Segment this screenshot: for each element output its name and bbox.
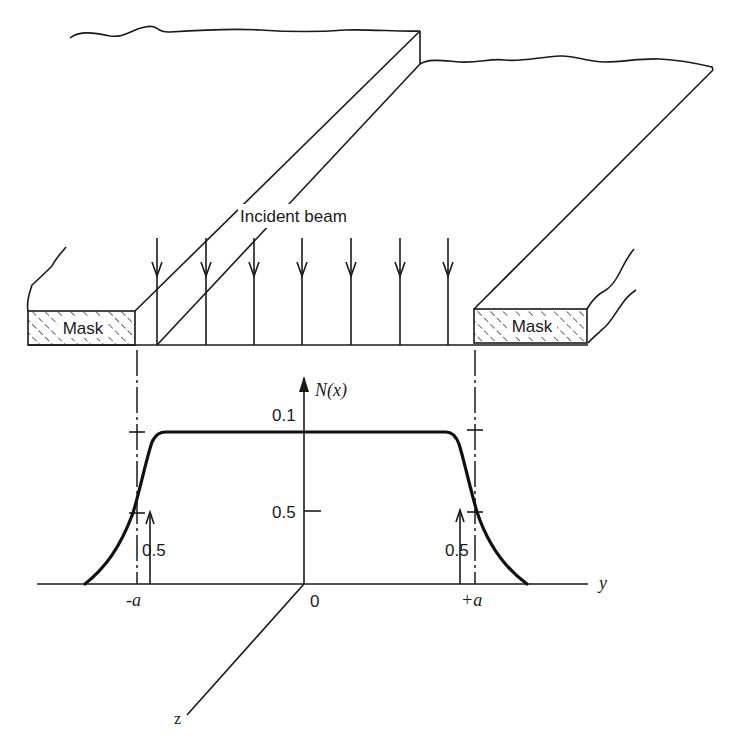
slab-back-wavy-edge-left — [70, 26, 420, 38]
mask-diffusion-diagram: Mask Mask Incident beam N( — [0, 0, 734, 745]
plateau-tick-label: 0.1 — [272, 406, 296, 425]
right-break-line-upper — [587, 249, 634, 309]
right-half-marker-label: 0.5 — [445, 541, 469, 560]
z-axis-label: z — [174, 710, 181, 727]
mask-right: Mask — [474, 309, 587, 343]
step-diagonal-top — [135, 31, 420, 311]
z-axis — [187, 584, 304, 715]
y-axis-label: y — [597, 573, 607, 593]
left-half-marker: 0.5 — [142, 512, 166, 584]
mask-left: Mask — [28, 311, 135, 345]
half-tick-label: 0.5 — [272, 503, 296, 522]
left-half-marker-label: 0.5 — [142, 541, 166, 560]
left-break-line — [27, 247, 66, 311]
right-half-marker: 0.5 — [445, 510, 469, 584]
incident-beam-label: Incident beam — [240, 207, 347, 226]
mask-right-label: Mask — [512, 317, 553, 336]
left-edge-label: -a — [126, 590, 141, 610]
mask-left-label: Mask — [63, 319, 104, 338]
slab-right-diagonal — [474, 70, 713, 309]
right-edge-label: +a — [461, 590, 482, 610]
n-axis-arrow-icon — [299, 376, 309, 392]
origin-label: 0 — [310, 592, 319, 611]
substrate-slab — [27, 26, 713, 345]
n-axis-label: N(x) — [314, 380, 347, 401]
plot-axes: N(x) 0.1 0.5 y 0 -a +a z — [37, 376, 607, 727]
incident-beam: Incident beam — [152, 204, 453, 345]
slab-back-wavy-edge-right — [420, 56, 713, 70]
